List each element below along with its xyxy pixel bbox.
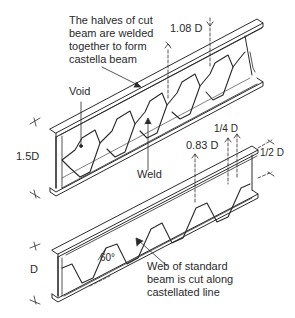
void-label: Void [69,85,90,98]
top-note: The halves of cut beam are welded togeth… [69,14,153,66]
top-note-line-1: The halves of cut [69,14,153,27]
bottom-note-line-1: Web of standard [147,260,233,273]
dim-083-label: 0.83 D [186,139,218,152]
dim-half-label: 1/2 D [260,146,284,159]
depth-bottom-label: D [30,263,38,276]
top-note-line-4: castella beam [69,53,153,66]
angle-label: 60° [100,251,115,264]
top-note-line-3: together to form [69,40,153,53]
dim-quarter-label: 1/4 D [214,122,238,135]
bottom-note-line-3: castellated line [147,286,233,299]
weld-label: Weld [137,168,162,181]
bottom-note: Web of standard beam is cut along castel… [147,260,233,299]
bottom-note-line-2: beam is cut along [147,273,233,286]
top-note-line-2: beam are welded [69,27,153,40]
dim-108-label: 1.08 D [170,22,202,35]
depth-top-label: 1.5D [16,150,39,163]
